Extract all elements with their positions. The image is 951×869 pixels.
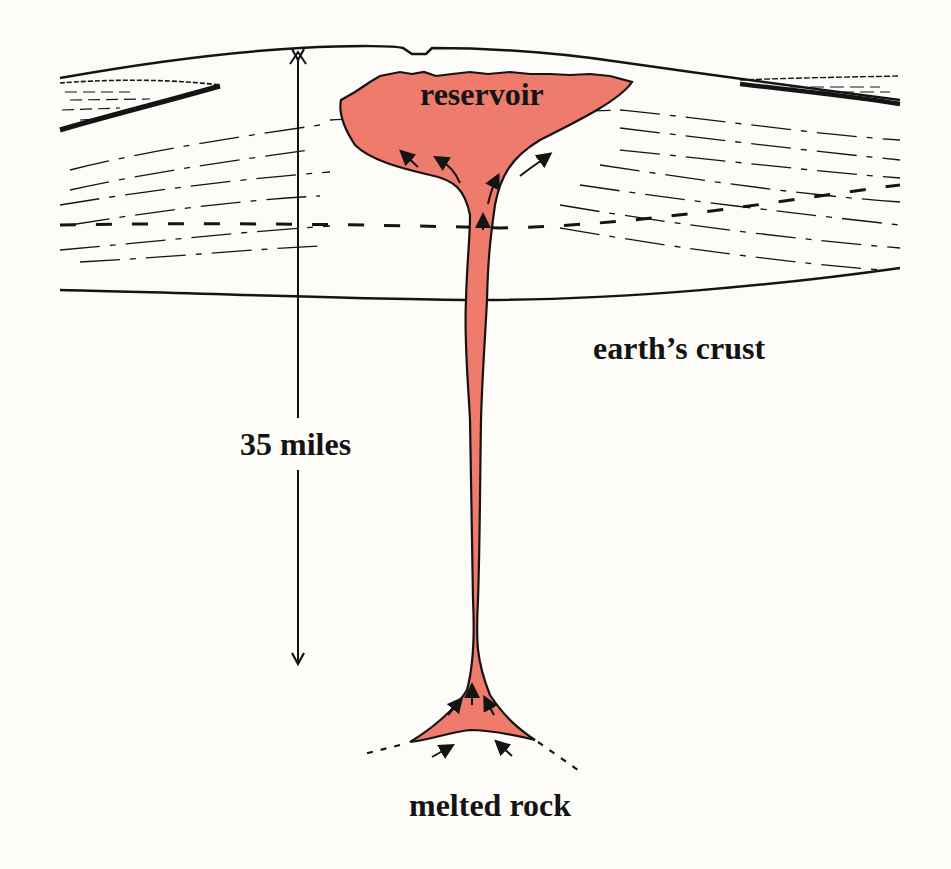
reservoir-label: reservoir	[420, 78, 544, 110]
left-sea	[60, 80, 220, 130]
depth-arrow	[290, 52, 306, 664]
source-boundary	[360, 742, 578, 770]
magma-diagram	[0, 0, 951, 869]
earths-crust-label: earth’s crust	[593, 332, 765, 364]
melted-rock-label: melted rock	[409, 789, 571, 821]
magma-body	[340, 72, 632, 742]
depth-label: 35 miles	[240, 428, 351, 460]
